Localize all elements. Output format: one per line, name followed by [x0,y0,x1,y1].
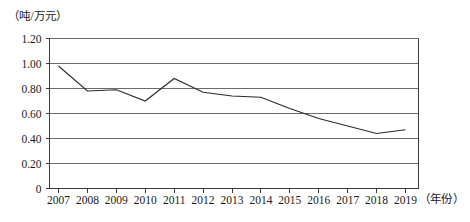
x-axis-tick-label: 2008 [76,194,99,206]
y-axis-tick-label: 0.20 [21,158,41,170]
series-line-1 [59,66,406,134]
x-axis-tick-label: 2010 [134,194,157,206]
y-axis-tick-label: 0.40 [21,133,41,145]
line-chart: （吨/万元） 00.200.400.600.801.001.20 2007200… [0,0,470,222]
x-axis-tick-label: 2017 [336,194,359,206]
y-axis-tick-label: 1.20 [21,33,41,45]
data-series [59,66,406,134]
x-axis-tick-label: 2015 [278,194,301,206]
y-axis-tick-label: 0.80 [21,83,41,95]
y-axis-tick-label: 0 [36,183,42,195]
y-axis-tick-label: 0.60 [21,108,41,120]
y-axis-tick-label: 1.00 [21,58,41,70]
x-axis-tick-marks [59,189,406,193]
x-axis-tick-label: 2007 [47,194,70,206]
x-axis-tick-label: 2011 [163,194,186,206]
gridlines [46,39,419,189]
x-axis-tick-label: 2009 [105,194,128,206]
x-axis-tick-label: 2013 [221,194,244,206]
x-axis-tick-label: 2016 [307,194,330,206]
x-axis-tick-label: 2018 [365,194,388,206]
y-axis-tick-labels: 00.200.400.600.801.001.20 [21,33,41,195]
x-axis-unit-label: （年份） [419,190,464,206]
chart-plot-area: 00.200.400.600.801.001.20 20072008200920… [0,0,470,222]
x-axis-tick-label: 2014 [249,194,272,206]
x-axis-tick-label: 2012 [192,194,215,206]
x-axis-tick-label: 2019 [394,194,417,206]
x-axis-tick-labels: 2007200820092010201120122013201420152016… [47,194,417,206]
